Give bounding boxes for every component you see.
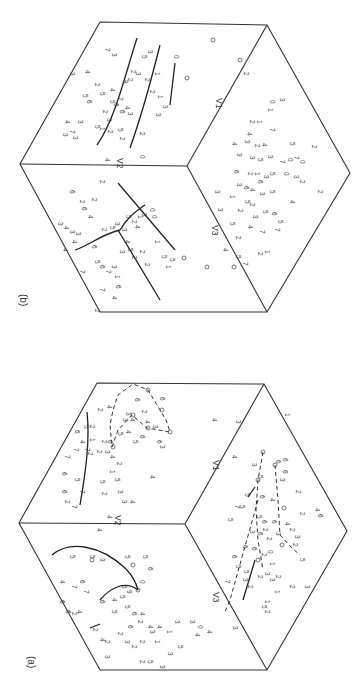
svg-text:2: 2	[144, 78, 151, 82]
svg-text:7: 7	[269, 128, 276, 132]
svg-text:2: 2	[149, 90, 156, 94]
svg-text:2: 2	[91, 198, 98, 202]
cube-b-circle-pt	[182, 256, 186, 260]
cube-a-v2-points: 4 2 6 6 2 6 4 5 7 7 1 2 2 2 2 3 6 4 5 3 …	[61, 397, 166, 532]
svg-text:4: 4	[206, 630, 213, 634]
svg-text:6: 6	[81, 207, 88, 211]
svg-text:3: 3	[267, 155, 274, 159]
svg-text:0: 0	[267, 550, 274, 554]
svg-text:6: 6	[282, 470, 289, 474]
svg-text:0: 0	[287, 158, 294, 162]
svg-text:2: 2	[237, 209, 244, 213]
svg-text:3: 3	[121, 228, 128, 232]
svg-text:2: 2	[139, 640, 146, 644]
svg-text:4: 4	[289, 200, 296, 204]
svg-text:7: 7	[279, 160, 286, 164]
svg-text:6: 6	[121, 585, 128, 589]
svg-text:3: 3	[242, 578, 249, 582]
svg-text:5: 5	[229, 222, 236, 226]
svg-text:6: 6	[243, 186, 250, 190]
svg-text:2: 2	[247, 585, 254, 589]
svg-text:6: 6	[119, 110, 126, 114]
svg-text:4: 4	[147, 625, 154, 629]
svg-text:3: 3	[122, 418, 129, 422]
svg-text:3: 3	[117, 490, 124, 494]
svg-text:7: 7	[224, 580, 231, 584]
svg-text:2: 2	[139, 250, 146, 254]
svg-text:3: 3	[259, 192, 266, 196]
svg-text:6: 6	[74, 430, 81, 434]
svg-text:3: 3	[149, 630, 156, 634]
svg-text:6: 6	[115, 285, 122, 289]
svg-text:3: 3	[217, 208, 224, 212]
axis-label-v1: V1	[214, 98, 224, 109]
svg-text:3: 3	[69, 230, 76, 234]
svg-text:5: 5	[114, 478, 121, 482]
svg-text:3: 3	[77, 120, 84, 124]
svg-text:3: 3	[279, 98, 286, 102]
svg-text:2: 2	[94, 83, 101, 87]
svg-text:5: 5	[124, 555, 131, 559]
svg-text:5: 5	[83, 425, 90, 429]
svg-text:5: 5	[99, 480, 106, 484]
svg-text:5: 5	[94, 260, 101, 264]
svg-text:2: 2	[299, 180, 306, 184]
cube-a-circle-pt	[131, 563, 135, 567]
svg-text:1: 1	[267, 108, 274, 112]
svg-text:1: 1	[284, 413, 291, 417]
svg-text:6: 6	[61, 472, 68, 476]
svg-text:2: 2	[289, 585, 296, 589]
svg-text:1: 1	[114, 275, 121, 279]
svg-text:5: 5	[124, 605, 131, 609]
svg-text:3: 3	[159, 445, 166, 449]
svg-text:5: 5	[299, 558, 306, 562]
svg-text:4: 4	[109, 88, 116, 92]
svg-text:0: 0	[299, 160, 306, 164]
cube-b-outline	[20, 22, 350, 312]
svg-text:5: 5	[132, 440, 139, 444]
svg-text:2: 2	[131, 220, 138, 224]
svg-text:4: 4	[59, 580, 66, 584]
svg-text:6: 6	[86, 100, 93, 104]
cube-b-v2-curve-3	[170, 63, 175, 105]
svg-text:3: 3	[155, 113, 162, 117]
svg-text:1: 1	[264, 250, 271, 254]
cube-a-v1-dashed-line-2	[275, 465, 300, 555]
svg-text:4: 4	[63, 226, 70, 230]
svg-text:4: 4	[76, 610, 83, 614]
svg-text:5: 5	[256, 515, 263, 519]
svg-text:7: 7	[274, 228, 281, 232]
svg-text:1: 1	[165, 265, 172, 269]
svg-text:2: 2	[107, 130, 114, 134]
svg-text:3: 3	[249, 530, 256, 534]
cube-a-edge-v2	[19, 523, 185, 524]
svg-text:6: 6	[107, 440, 114, 444]
svg-text:3: 3	[232, 626, 239, 630]
svg-text:4: 4	[284, 522, 291, 526]
svg-text:5: 5	[117, 128, 124, 132]
cube-b-circle-pt	[185, 76, 189, 80]
svg-text:2: 2	[289, 528, 296, 532]
svg-text:4: 4	[64, 120, 71, 124]
svg-text:3: 3	[135, 72, 142, 76]
svg-text:6: 6	[257, 532, 264, 536]
svg-text:6: 6	[65, 610, 72, 614]
svg-text:0: 0	[139, 580, 146, 584]
svg-text:1: 1	[157, 95, 164, 99]
svg-text:5: 5	[243, 570, 250, 574]
svg-text:7: 7	[105, 270, 112, 274]
svg-text:3: 3	[167, 652, 174, 656]
svg-text:5: 5	[257, 475, 264, 479]
svg-text:2: 2	[317, 190, 324, 194]
svg-text:2: 2	[262, 528, 269, 532]
svg-text:2: 2	[243, 72, 250, 76]
svg-text:5: 5	[257, 158, 264, 162]
svg-text:4: 4	[314, 508, 321, 512]
svg-text:2: 2	[249, 203, 256, 207]
svg-text:6: 6	[113, 103, 120, 107]
svg-text:5: 5	[141, 55, 148, 59]
svg-text:2: 2	[89, 425, 96, 429]
svg-text:2: 2	[295, 490, 302, 494]
svg-text:3: 3	[294, 535, 301, 539]
svg-text:3: 3	[106, 118, 113, 122]
